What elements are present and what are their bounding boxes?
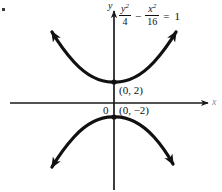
equation-equals-sign: =: [163, 10, 169, 22]
equation-numerator-y-exponent: 2: [125, 2, 129, 10]
vertex-lower-label: (0, −2): [119, 105, 149, 116]
hyperbola-upper-right-branch: [114, 32, 176, 82]
equation-minus-operator: −: [135, 10, 141, 22]
x-axis-label: x: [212, 97, 216, 107]
equation-numerator-x: x2: [146, 4, 158, 15]
hyperbola-equation: y2 4 − x2 16 = 1: [118, 4, 180, 27]
vertex-upper-point: [111, 79, 116, 84]
hyperbola-upper-left-branch: [52, 32, 114, 82]
hyperbola-lower-right-branch: [114, 117, 173, 164]
vertex-upper-label: (0, 2): [119, 85, 143, 96]
equation-numerator-y: y2: [119, 4, 131, 15]
equation-numerator-x-exponent: 2: [153, 2, 157, 10]
equation-right-hand-side: 1: [174, 10, 180, 22]
equation-term-x-squared-over-16: x2 16: [145, 4, 159, 27]
origin-label: 0: [103, 105, 109, 116]
equation-term-y-squared-over-4: y2 4: [119, 4, 131, 27]
hyperbola-plot: [0, 0, 222, 192]
vertex-lower-point: [111, 114, 116, 119]
hyperbola-lower-left-branch: [52, 117, 114, 167]
hyperbola-figure: y x 0 (0, 2) (0, −2) y2 4 − x2 16 = 1: [0, 0, 222, 192]
equation-denominator-4: 4: [120, 16, 129, 27]
y-axis-label: y: [108, 1, 112, 11]
equation-denominator-16: 16: [145, 16, 159, 27]
